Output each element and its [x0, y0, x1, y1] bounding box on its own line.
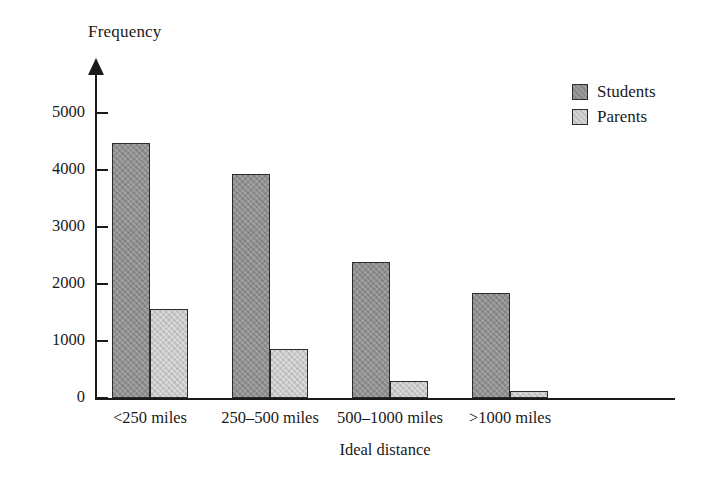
y-tick-label: 0 [31, 389, 85, 405]
parents-swatch-icon [572, 109, 588, 125]
x-category-label-1: 250–500 miles [210, 408, 330, 428]
bar-students-3 [472, 293, 510, 398]
bar-students-2 [352, 262, 390, 398]
y-tick-label: 1000 [31, 332, 85, 348]
bar-parents-1 [270, 349, 308, 398]
y-tick-label: 4000 [31, 161, 85, 177]
y-axis-title: Frequency [88, 22, 162, 42]
x-category-label-2: 500–1000 miles [330, 408, 450, 428]
bar-parents-3 [510, 391, 548, 398]
y-tick-label: 3000 [31, 218, 85, 234]
y-tick-label-wrap: 5000 [31, 104, 85, 120]
y-tick-label-wrap: 2000 [31, 275, 85, 291]
x-axis-title: Ideal distance [95, 440, 675, 460]
x-axis-line [95, 398, 675, 400]
chart-legend: Students Parents [572, 79, 656, 129]
bar-chart: Frequency 010002000300040005000 <250 mil… [0, 0, 712, 485]
bar-students-1 [232, 174, 270, 398]
y-tick-label-wrap: 1000 [31, 332, 85, 348]
legend-item-parents: Parents [572, 104, 656, 129]
bar-parents-0 [150, 309, 188, 398]
students-swatch-icon [572, 84, 588, 100]
legend-label-students: Students [597, 83, 656, 100]
y-tick-label-wrap: 4000 [31, 161, 85, 177]
legend-item-students: Students [572, 79, 656, 104]
legend-label-parents: Parents [597, 108, 647, 125]
y-tick-label-wrap: 0 [31, 389, 85, 405]
bar-parents-2 [390, 381, 428, 398]
x-category-label-3: >1000 miles [450, 408, 570, 428]
bar-students-0 [112, 143, 150, 398]
y-tick-label: 2000 [31, 275, 85, 291]
x-category-label-0: <250 miles [90, 408, 210, 428]
y-tick-label-wrap: 3000 [31, 218, 85, 234]
y-tick-label: 5000 [31, 104, 85, 120]
